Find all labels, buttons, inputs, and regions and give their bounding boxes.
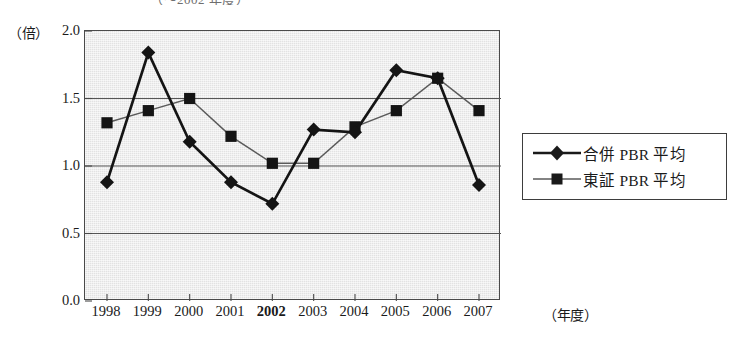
- data-point-diamond: [389, 63, 403, 77]
- y-tick-label: 0.0: [40, 293, 80, 308]
- data-point-diamond: [307, 123, 321, 137]
- legend-label-0: 合併 PBR 平均: [583, 142, 686, 164]
- x-tick-label: 2007: [450, 304, 506, 320]
- y-tick-label: 1.0: [40, 158, 80, 173]
- data-point-square: [267, 158, 278, 169]
- data-point-square: [184, 93, 195, 104]
- legend-label-1: 東証 PBR 平均: [583, 168, 686, 190]
- y-tick-label: 1.5: [40, 91, 80, 106]
- legend-swatch-square-icon: [531, 168, 583, 190]
- data-point-square: [225, 131, 236, 142]
- plot-area: [84, 30, 500, 300]
- legend-item-1: 東証 PBR 平均: [531, 166, 718, 192]
- data-point-square: [143, 105, 154, 116]
- series-line-1: [107, 78, 479, 163]
- series-line-0: [107, 53, 479, 204]
- y-axis-tick-labels: 0.00.51.01.52.0: [36, 0, 80, 354]
- data-point-square: [308, 158, 319, 169]
- data-point-diamond: [141, 46, 155, 60]
- data-point-square: [101, 117, 112, 128]
- legend-item-0: 合併 PBR 平均: [531, 140, 718, 166]
- data-point-diamond: [100, 175, 114, 189]
- legend: 合併 PBR 平均 東証 PBR 平均: [522, 133, 727, 200]
- data-point-diamond: [265, 197, 279, 211]
- data-point-diamond: [472, 178, 486, 192]
- y-tick-label: 2.0: [40, 23, 80, 38]
- pbr-line-chart: （～2002 年度） （倍） 0.00.51.01.52.0 199819992…: [0, 0, 735, 354]
- chart-title: （～2002 年度）: [150, 0, 370, 5]
- legend-swatch-diamond-icon: [531, 142, 583, 164]
- data-point-square: [391, 105, 402, 116]
- y-tick-label: 0.5: [40, 226, 80, 241]
- x-axis-tick-labels: 1998199920002001200220032004200520062007: [84, 304, 500, 330]
- plot-series-svg: [85, 31, 501, 301]
- data-point-square: [473, 105, 484, 116]
- x-axis-unit-label: （年度）: [543, 304, 597, 324]
